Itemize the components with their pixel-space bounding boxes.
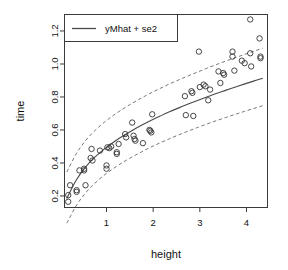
legend-label-yMhat-se2: yMhat + se2 — [105, 23, 157, 34]
y-tick-label: 0.6 — [49, 123, 60, 136]
y-axis-title: time — [14, 101, 26, 122]
scatter-plot-figure: 0.20.40.60.81.01.2 1234 yMhat + se2 heig… — [0, 0, 288, 270]
x-tick-label: 2 — [151, 217, 156, 228]
y-tick-label: 0.2 — [49, 189, 60, 202]
y-tick-label: 1.0 — [49, 57, 60, 70]
chart-container: 0.20.40.60.81.01.2 1234 yMhat + se2 heig… — [0, 0, 288, 270]
y-tick-label: 1.2 — [49, 24, 60, 37]
x-tick-label: 3 — [197, 217, 202, 228]
y-tick-label: 0.4 — [49, 156, 60, 169]
x-tick-label: 4 — [244, 217, 249, 228]
x-axis-title: height — [151, 248, 181, 260]
legend: yMhat + se2 — [65, 15, 178, 42]
y-tick-label: 0.8 — [49, 90, 60, 103]
x-tick-label: 1 — [104, 217, 109, 228]
